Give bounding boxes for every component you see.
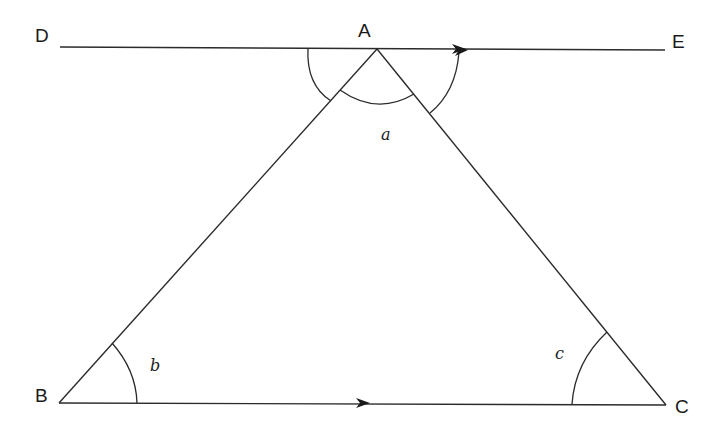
angle-a-arc: [340, 90, 414, 104]
angle-dab-arc: [308, 48, 331, 101]
point-label-e: E: [672, 31, 685, 52]
side-ac: [377, 49, 666, 405]
point-label-a: A: [358, 20, 371, 41]
point-label-d: D: [35, 25, 49, 46]
angle-cae-arc: [430, 52, 459, 113]
angle-c-arc: [572, 332, 607, 404]
angle-label-c: c: [555, 344, 564, 363]
point-label-c: C: [675, 396, 689, 417]
angle-label-b: b: [150, 356, 160, 375]
parallel-arrow-icon-bc: [356, 398, 370, 408]
side-ab: [59, 49, 377, 403]
angle-b-arc: [112, 343, 137, 403]
angle-label-a: a: [381, 125, 391, 144]
point-label-b: B: [35, 385, 48, 406]
line-de: [60, 47, 665, 50]
triangle-diagram: D A E B C a b c: [0, 0, 720, 431]
